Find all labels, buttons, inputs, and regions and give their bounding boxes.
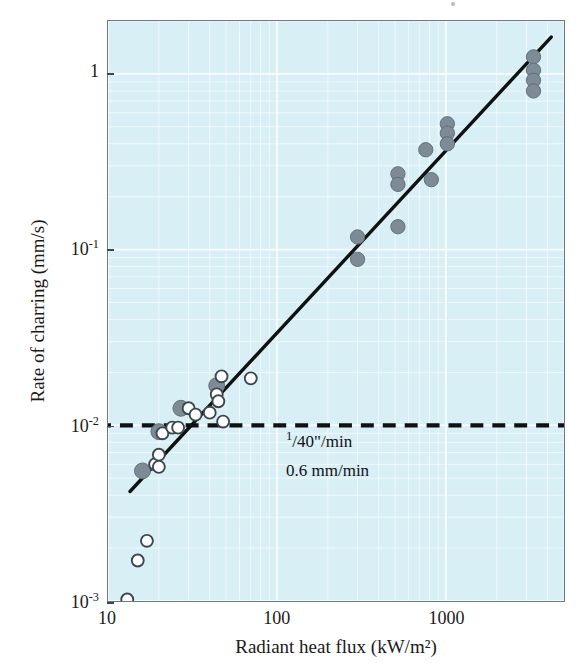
y-tick-label: 1 [39, 61, 99, 82]
y-tick-mark [107, 73, 114, 75]
y-axis-label: Rate of charring (mm/s) [27, 191, 49, 431]
data-point-open [217, 416, 229, 428]
data-point-open [245, 372, 257, 384]
y-tick-mark [107, 249, 114, 251]
data-point-filled [391, 220, 405, 234]
data-point-open [132, 555, 144, 567]
data-point-filled [350, 252, 364, 266]
data-point-open [153, 449, 165, 461]
data-point-filled [391, 177, 405, 191]
reference-label-rest: /40"/min [292, 432, 352, 451]
reference-line-label-lower: 0.6 mm/min [286, 461, 369, 481]
y-tick-mark [107, 602, 114, 604]
data-point-open [172, 422, 184, 434]
data-point-open [204, 407, 216, 419]
scan-artifact [451, 2, 455, 6]
x-tick-label: 1000 [411, 608, 481, 629]
reference-line-label-upper: 1/40"/min [286, 429, 352, 452]
plot-area: 1/40"/min 0.6 mm/min [107, 20, 565, 602]
chart-figure: 1/40"/min 0.6 mm/min Rate of charring (m… [0, 0, 587, 671]
data-point-open [190, 409, 202, 421]
data-point-open [153, 461, 165, 473]
data-point-filled [440, 137, 454, 151]
data-point-open [141, 535, 153, 547]
y-tick-label: 10-1 [39, 237, 99, 260]
x-tick-label: 100 [242, 608, 312, 629]
x-tick-label: 10 [72, 608, 142, 629]
data-point-open [212, 395, 224, 407]
y-tick-mark [107, 426, 114, 428]
x-axis-label: Radiant heat flux (kW/m²) [107, 636, 565, 658]
data-point-filled [419, 143, 433, 157]
data-point-filled [135, 463, 151, 479]
data-point-filled [424, 173, 438, 187]
y-tick-label: 10-2 [39, 414, 99, 437]
data-point-filled [350, 230, 364, 244]
data-point-filled [526, 84, 540, 98]
data-point-open [121, 594, 133, 601]
data-layer [108, 21, 564, 601]
data-point-open [216, 370, 228, 382]
data-point-filled [526, 50, 540, 64]
